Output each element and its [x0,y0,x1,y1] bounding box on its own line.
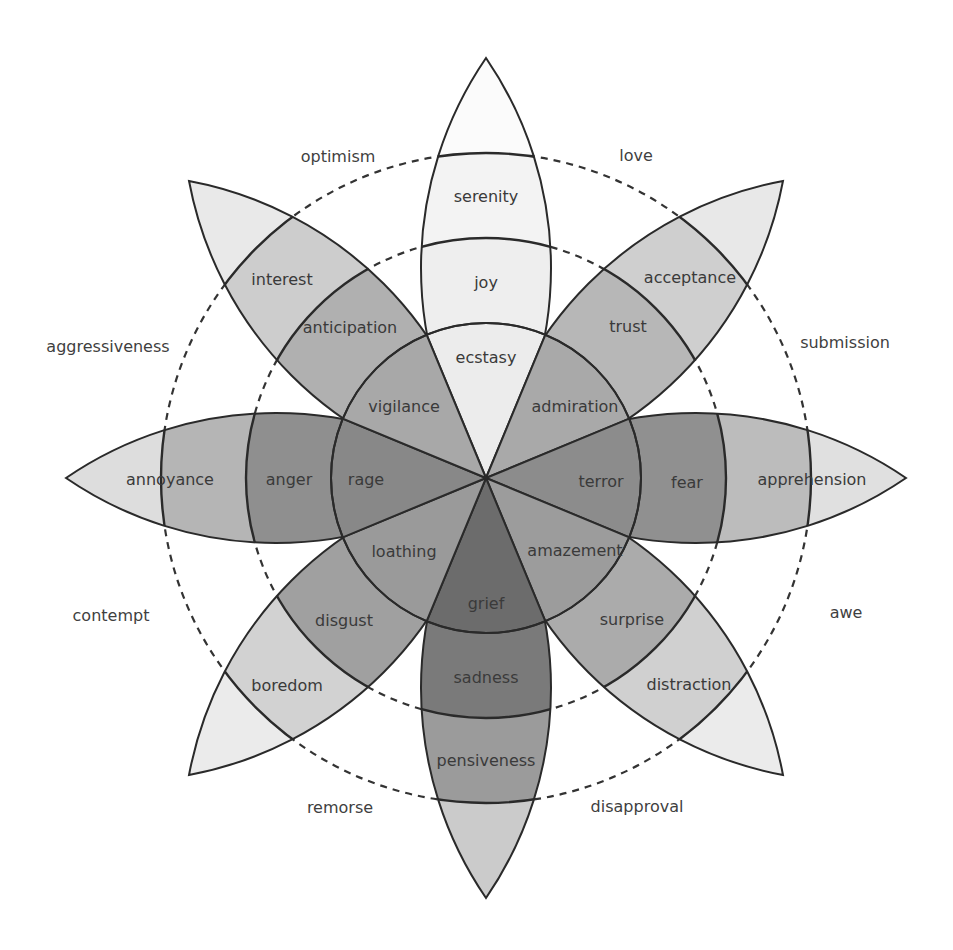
label-rage: rage [348,470,384,489]
label-serenity: serenity [454,187,519,206]
label-pensiveness: pensiveness [437,751,536,770]
dyad-submission: submission [800,333,890,352]
label-sadness: sadness [454,668,519,687]
label-joy: joy [473,273,498,292]
label-anger: anger [266,470,313,489]
label-distraction: distraction [646,675,731,694]
label-acceptance: acceptance [644,268,736,287]
dyad-aggressiveness: aggressiveness [46,337,169,356]
label-anticipation: anticipation [303,318,398,337]
label-boredom: boredom [251,676,323,695]
label-loathing: loathing [371,542,436,561]
label-vigilance: vigilance [368,397,440,416]
label-disgust: disgust [315,611,373,630]
label-apprehension: apprehension [757,470,866,489]
dyad-remorse: remorse [307,798,373,817]
label-amazement: amazement [527,541,622,560]
label-trust: trust [609,317,647,336]
dyad-optimism: optimism [301,147,376,166]
dyad-awe: awe [830,603,863,622]
label-fear: fear [671,473,703,492]
label-annoyance: annoyance [126,470,214,489]
label-interest: interest [251,270,312,289]
plutchik-wheel: ecstasyadmirationterroramazementgriefloa… [0,0,953,950]
label-ecstasy: ecstasy [456,348,517,367]
label-admiration: admiration [531,397,618,416]
dyad-love: love [619,146,653,165]
label-surprise: surprise [600,610,664,629]
label-terror: terror [578,472,623,491]
label-grief: grief [468,594,505,613]
dyad-contempt: contempt [73,606,150,625]
dyad-disapproval: disapproval [591,797,684,816]
